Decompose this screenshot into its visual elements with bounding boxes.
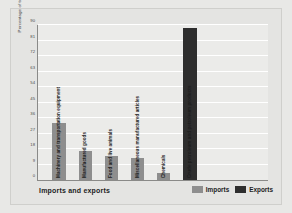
legend-label-exports: Exports — [249, 186, 273, 193]
y-tick-label: 9 — [33, 157, 35, 162]
y-tick-label: 0 — [33, 173, 35, 178]
bar-group: Machinery and transportation equipmentMa… — [38, 25, 268, 180]
y-tick-label: 45 — [30, 95, 35, 100]
y-tick-label: 90 — [30, 18, 35, 23]
y-axis-title: Percentage of total — [15, 0, 25, 55]
category-label: Crude petroleum and petroleum products — [186, 85, 191, 178]
x-axis-title: Imports and exports — [39, 187, 110, 194]
bar-column: Miscellaneous manufactured articles — [131, 25, 145, 180]
legend-label-imports: Imports — [206, 186, 229, 193]
category-label: Manufactured goods — [82, 132, 87, 178]
legend-item-imports: Imports — [192, 186, 229, 193]
bar-column: Food and live animals — [105, 25, 119, 180]
chart-figure: Percentage of total 09182736455463728190… — [10, 8, 282, 205]
y-tick-label: 54 — [30, 80, 35, 85]
y-tick-label: 27 — [30, 126, 35, 131]
y-tick-label: 18 — [30, 142, 35, 147]
bar-column: Chemicals — [157, 25, 171, 180]
category-label: Food and live animals — [108, 129, 113, 178]
bar-column: Crude petroleum and petroleum products — [183, 25, 197, 180]
y-tick-label: 36 — [30, 111, 35, 116]
y-tick-label: 81 — [30, 33, 35, 38]
y-tick-label: 72 — [30, 49, 35, 54]
bar-column: Manufactured goods — [79, 25, 93, 180]
category-label: Machinery and transportation equipment — [56, 87, 61, 178]
category-label: Chemicals — [160, 155, 165, 178]
category-label: Miscellaneous manufactured articles — [134, 96, 139, 178]
y-tick-label: 63 — [30, 64, 35, 69]
chart-legend: Imports Exports — [192, 186, 273, 193]
legend-item-exports: Exports — [235, 186, 273, 193]
bar-column: Machinery and transportation equipment — [52, 25, 66, 180]
legend-swatch-exports — [235, 186, 246, 193]
plot-area: 09182736455463728190 Machinery and trans… — [37, 25, 268, 181]
legend-swatch-imports — [192, 186, 203, 193]
